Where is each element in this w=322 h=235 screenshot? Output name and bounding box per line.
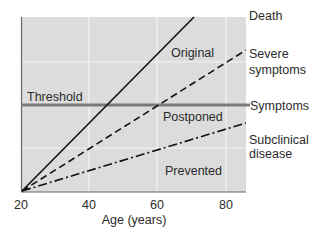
x-tick-20: 20 [14, 198, 28, 212]
right-label-symptoms: Symptoms [250, 99, 309, 113]
region-label-original: Original [171, 46, 214, 60]
region-label-postponed: Postponed [163, 110, 223, 124]
right-label-subclinical-1: Subclinical [249, 133, 309, 147]
x-tick-80: 80 [219, 198, 233, 212]
x-axis-label: Age (years) [102, 213, 167, 227]
right-label-severe-1: Severe [249, 47, 289, 61]
right-label-subclinical-2: disease [249, 147, 292, 161]
right-label-death: Death [249, 9, 282, 23]
x-tick-40: 40 [82, 198, 96, 212]
right-label-severe-2: symptoms [249, 63, 306, 77]
threshold-label: Threshold [27, 90, 83, 104]
region-label-prevented: Prevented [165, 164, 222, 178]
disease-progression-chart: Threshold Original Postponed Prevented D… [0, 0, 322, 235]
x-tick-60: 60 [150, 198, 164, 212]
